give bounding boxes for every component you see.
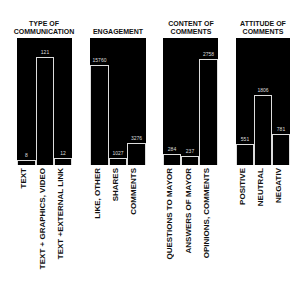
bar-comments bbox=[127, 143, 146, 165]
category-label: OPINIONS, COMMENTS bbox=[202, 168, 211, 258]
category-label: TEXT bbox=[19, 168, 28, 188]
bar-text bbox=[17, 160, 36, 165]
chart-panel-attitude: 551 1806 781 bbox=[236, 38, 290, 165]
category-label: NEUTRAL bbox=[256, 168, 265, 206]
panel-title-content: CONTENT OFCOMMENTS bbox=[151, 20, 231, 36]
category-label: POSITIVE bbox=[238, 168, 247, 205]
bar-answers bbox=[181, 156, 199, 165]
bar-negative bbox=[272, 134, 290, 165]
value-label: 781 bbox=[272, 126, 290, 132]
category-label: ANSWERS OF MAYOR bbox=[184, 168, 193, 254]
value-label: 237 bbox=[181, 148, 199, 154]
bar-positive bbox=[236, 144, 254, 165]
chart-panel-engagement: 15760 1027 3276 bbox=[90, 38, 146, 165]
chart-panel-communication: 8 121 12 bbox=[17, 38, 72, 165]
bar-questions bbox=[163, 154, 181, 165]
bar-shares bbox=[109, 158, 127, 165]
value-label: 12 bbox=[54, 150, 72, 156]
chart-panel-content: 284 237 2758 bbox=[163, 38, 218, 165]
category-label: TEXT +EXTERNAL LINK bbox=[56, 168, 65, 259]
panel-title-attitude: ATTITUDE OFCOMMENTS bbox=[223, 20, 303, 36]
bar-text-graphics bbox=[36, 57, 54, 165]
category-label: TEXT + GRAPHICS, VIDEO bbox=[38, 168, 47, 269]
category-label: QUESTIONS TO MAYOR bbox=[165, 168, 174, 260]
bar-neutral bbox=[254, 95, 272, 165]
category-label: LIKE, OTHER bbox=[93, 168, 102, 219]
panel-title-engagement: ENGAGEMENT bbox=[78, 28, 158, 36]
panel-title-communication: TYPE OFCOMMUNICATION bbox=[4, 20, 84, 36]
value-label: 3276 bbox=[127, 135, 146, 141]
bar-opinions bbox=[199, 59, 218, 165]
value-label: 8 bbox=[17, 152, 36, 158]
value-label: 551 bbox=[236, 136, 254, 142]
value-label: 15760 bbox=[90, 57, 109, 63]
category-label: COMMENTS bbox=[129, 168, 138, 215]
bar-text-link bbox=[54, 158, 72, 165]
value-label: 1806 bbox=[254, 87, 272, 93]
value-label: 121 bbox=[36, 49, 54, 55]
category-label: NEGATIV bbox=[274, 168, 283, 203]
value-label: 284 bbox=[163, 146, 181, 152]
bar-like bbox=[90, 65, 109, 165]
category-label: SHARES bbox=[111, 168, 120, 201]
value-label: 1027 bbox=[109, 150, 127, 156]
value-label: 2758 bbox=[199, 51, 218, 57]
